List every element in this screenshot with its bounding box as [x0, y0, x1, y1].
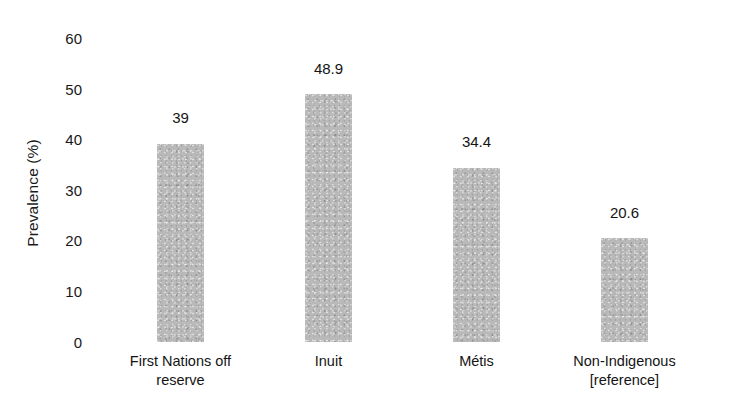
bar-value-label: 48.9 — [288, 60, 369, 77]
plot-area: 39 First Nations off reserve 48.9 Inuit … — [0, 0, 736, 420]
x-tick-label-line: reserve — [110, 371, 251, 390]
bar-value-label: 20.6 — [584, 204, 665, 221]
x-tick-label-line: First Nations off — [110, 352, 251, 371]
x-tick-label-non-indigenous-reference: Non-Indigenous [reference] — [554, 352, 695, 390]
bar-value-label: 34.4 — [436, 133, 517, 150]
bar-value-label: 39 — [140, 109, 221, 126]
x-tick-label-line: Inuit — [258, 352, 399, 371]
bar-non-indigenous-reference[interactable] — [601, 238, 648, 342]
bar-inuit[interactable] — [305, 94, 352, 342]
x-tick-label-first-nations-off-reserve: First Nations off reserve — [110, 352, 251, 390]
bar-first-nations-off-reserve[interactable] — [157, 144, 204, 342]
x-tick-label-line: Métis — [406, 352, 547, 371]
x-tick-label-line: Non-Indigenous — [554, 352, 695, 371]
x-tick-label-metis: Métis — [406, 352, 547, 371]
bar-chart: Prevalence (%) 60 50 40 30 20 10 0 39 Fi… — [0, 0, 736, 420]
x-tick-label-line: [reference] — [554, 371, 695, 390]
x-tick-label-inuit: Inuit — [258, 352, 399, 371]
bar-metis[interactable] — [453, 168, 500, 342]
